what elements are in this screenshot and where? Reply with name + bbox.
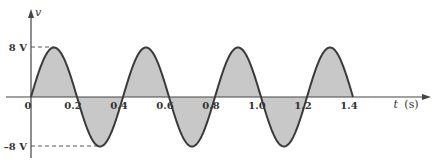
y-label-v: v bbox=[35, 6, 42, 19]
x-tick-label: 1.2 bbox=[294, 100, 311, 111]
x-tick-label: 1.4 bbox=[340, 100, 357, 111]
t-axis-arrow-icon bbox=[422, 94, 431, 100]
x-axis-var: t bbox=[393, 98, 398, 111]
x-tick-label: 0.8 bbox=[202, 100, 219, 111]
x-tick-label: 0.2 bbox=[64, 100, 81, 111]
x-axis-label: t (s) bbox=[393, 98, 418, 111]
x-tick-label: 1.0 bbox=[248, 100, 265, 111]
x-tick-label: 0.6 bbox=[156, 100, 173, 111]
x-tick-label: 0.4 bbox=[110, 100, 127, 111]
y-tick-pos: 8 V bbox=[9, 42, 27, 53]
v-axis-arrow-icon bbox=[28, 9, 34, 18]
sine-wave-chart: v 8 V –8 V 00.20.40.60.81.01.21.4 t (s) bbox=[0, 0, 439, 168]
x-tick-label: 0 bbox=[25, 100, 32, 111]
x-axis-unit: (s) bbox=[404, 98, 418, 111]
y-tick-neg: –8 V bbox=[4, 141, 27, 152]
